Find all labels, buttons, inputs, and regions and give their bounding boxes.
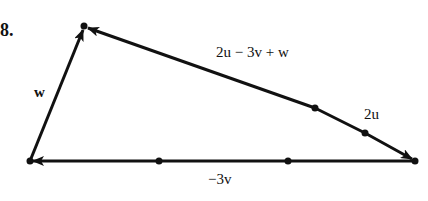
point-top bbox=[81, 23, 88, 30]
vector-resultant bbox=[88, 28, 315, 108]
point-left bbox=[27, 158, 34, 165]
tick-slant-1 bbox=[312, 105, 319, 112]
tick-bottom-1 bbox=[156, 158, 163, 165]
label-neg-3v: −3v bbox=[208, 171, 231, 188]
label-w: w bbox=[34, 84, 45, 101]
tick-bottom-2 bbox=[285, 158, 292, 165]
tick-slant-2 bbox=[362, 130, 369, 137]
point-right bbox=[412, 158, 419, 165]
label-2u: 2u bbox=[364, 106, 379, 123]
label-resultant: 2u − 3v + w bbox=[216, 44, 289, 61]
